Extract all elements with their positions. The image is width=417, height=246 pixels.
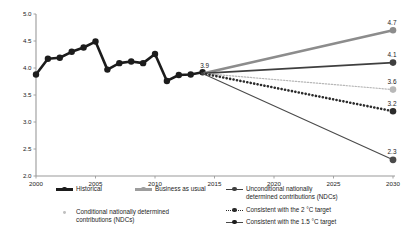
series-conditional-nationally-determined-contributions-ndcs: 3.6 xyxy=(203,73,397,92)
y-axis-tick-label: 2.5 xyxy=(23,145,32,152)
data-point xyxy=(45,56,51,62)
conditional-ndc-line-marker-icon xyxy=(56,209,73,217)
branch-point-value-label: 3.9 xyxy=(200,62,209,69)
legend-label-target-2c: Consistent with the 2 °C target xyxy=(246,206,331,214)
data-point xyxy=(128,58,134,64)
endpoint-value-label: 3.2 xyxy=(388,100,397,107)
data-point xyxy=(140,60,146,66)
data-point xyxy=(57,55,63,61)
y-axis-tick-label: 4.5 xyxy=(23,37,32,44)
legend-item-business-as-usual[interactable]: Business as usual xyxy=(135,185,206,194)
endpoint-value-label: 3.6 xyxy=(388,78,397,85)
data-point xyxy=(69,49,75,55)
series-business-as-usual: 4.7 xyxy=(203,19,397,74)
target-2c-line-marker-icon xyxy=(226,207,243,215)
data-point xyxy=(104,66,110,72)
data-point xyxy=(176,72,182,78)
y-axis-tick-label: 4.0 xyxy=(23,64,32,71)
chart-legend: Historical Business as usual Uncondition… xyxy=(0,184,417,246)
series-line xyxy=(203,30,393,73)
series-line xyxy=(203,73,393,111)
y-axis-tick-label: 3.0 xyxy=(23,118,32,125)
business-as-usual-line-marker-icon xyxy=(135,186,152,194)
data-point xyxy=(152,51,158,57)
legend-item-unconditional-ndc[interactable]: Unconditional nationally determined cont… xyxy=(226,185,338,201)
data-point xyxy=(33,71,39,77)
legend-label-business-as-usual: Business as usual xyxy=(155,185,206,193)
endpoint-data-point xyxy=(390,27,397,34)
historical-line-marker-icon xyxy=(56,186,73,194)
unconditional-ndc-line-marker-icon xyxy=(226,186,243,194)
endpoint-value-label: 4.7 xyxy=(388,19,397,26)
endpoint-data-point xyxy=(390,59,397,66)
data-point xyxy=(188,71,194,77)
y-axis-ticks: 5.04.54.03.53.02.52.0 xyxy=(23,10,36,179)
endpoint-data-point xyxy=(390,108,397,115)
legend-label-historical: Historical xyxy=(76,185,102,193)
endpoint-value-label: 2.3 xyxy=(388,148,397,155)
endpoint-data-point xyxy=(390,156,397,163)
legend-label-conditional-ndc: Conditional nationally determined contri… xyxy=(76,208,169,224)
series-consistent-with-the-2-c-target: 3.2 xyxy=(203,73,397,114)
series-unconditional-nationally-determined-contributions-ndcs: 4.1 xyxy=(203,51,397,73)
legend-item-target-1-5c[interactable]: Consistent with the 1.5 °C target xyxy=(226,218,336,227)
legend-item-historical[interactable]: Historical xyxy=(56,185,102,194)
branch-point-annotation: 3.9 xyxy=(200,62,209,69)
y-axis-tick-label: 5.0 xyxy=(23,10,32,17)
endpoint-data-point xyxy=(390,86,397,93)
endpoint-value-label: 4.1 xyxy=(388,51,397,58)
data-point xyxy=(92,38,98,44)
legend-item-conditional-ndc[interactable]: Conditional nationally determined contri… xyxy=(56,208,169,224)
data-point xyxy=(80,44,86,50)
y-axis-tick-label: 2.0 xyxy=(23,172,32,179)
emissions-projection-chart: 5.04.54.03.53.02.52.02000200520102015202… xyxy=(0,0,417,246)
target-1-5c-line-marker-icon xyxy=(226,219,243,227)
chart-axes xyxy=(36,14,395,176)
data-point xyxy=(164,78,170,84)
series-line xyxy=(203,73,393,89)
series-historical xyxy=(33,38,206,84)
legend-item-target-2c[interactable]: Consistent with the 2 °C target xyxy=(226,206,331,215)
y-axis-tick-label: 3.5 xyxy=(23,91,32,98)
legend-label-target-1-5c: Consistent with the 1.5 °C target xyxy=(246,218,336,226)
series-line xyxy=(203,73,393,159)
data-point xyxy=(116,60,122,66)
legend-label-unconditional-ndc: Unconditional nationally determined cont… xyxy=(246,185,338,201)
